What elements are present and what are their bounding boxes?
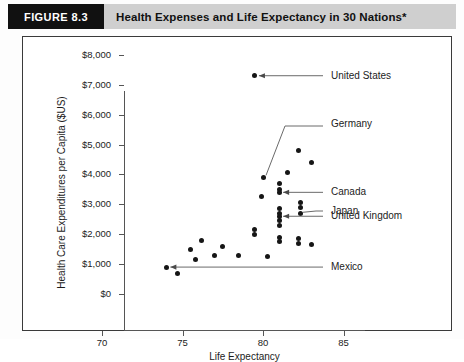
- x-tick-mark: [344, 331, 345, 336]
- data-point: [252, 232, 257, 237]
- y-tick-label: $8,000: [45, 50, 111, 60]
- data-point: [259, 194, 264, 199]
- data-point: [296, 241, 301, 246]
- x-tick-label: 75: [163, 337, 203, 348]
- data-point: [199, 238, 204, 243]
- data-point: [277, 239, 282, 244]
- y-tick-mark: [119, 234, 124, 235]
- data-point: [193, 257, 198, 262]
- y-tick-mark: [119, 55, 124, 56]
- data-point: [188, 247, 193, 252]
- x-tick-label: 85: [324, 337, 364, 348]
- leader-arrowhead: [170, 264, 176, 269]
- x-axis-line: [124, 330, 365, 331]
- y-axis-title: Health Care Expenditures per Capita ($US…: [56, 93, 67, 293]
- y-axis-line: [124, 91, 125, 331]
- data-point: [175, 271, 180, 276]
- data-point: [220, 244, 225, 249]
- y-tick-mark: [119, 115, 124, 116]
- figure-title: Health Expenses and Life Expectancy in 3…: [116, 4, 407, 29]
- figure-number-text: FIGURE 8.3: [24, 11, 88, 23]
- data-point: [164, 265, 169, 270]
- data-point: [296, 148, 301, 153]
- x-tick-label: 80: [243, 337, 283, 348]
- leader-arrowhead: [259, 73, 265, 78]
- y-tick-mark: [119, 174, 124, 175]
- data-point: [285, 170, 290, 175]
- x-tick-mark: [263, 331, 264, 336]
- data-point: [309, 160, 314, 165]
- data-point: [277, 190, 282, 195]
- data-point: [236, 253, 241, 258]
- leader-arrowhead: [283, 214, 289, 219]
- plot-area: $0$1,000$2,000$3,000$4,000$5,000$6,000$7…: [22, 36, 452, 331]
- annotation-label: United States: [331, 70, 391, 81]
- x-axis-title: Life Expectancy: [124, 351, 365, 362]
- y-tick-mark: [119, 204, 124, 205]
- y-tick-mark: [119, 145, 124, 146]
- figure-number-badge: FIGURE 8.3: [8, 4, 104, 29]
- annotation-label: Germany: [331, 118, 372, 129]
- x-tick-mark: [102, 331, 103, 336]
- annotation-label: Mexico: [331, 261, 363, 272]
- leader-line: [266, 126, 323, 175]
- y-tick-mark: [119, 294, 124, 295]
- data-point: [298, 205, 303, 210]
- data-point: [261, 175, 266, 180]
- data-point: [277, 223, 282, 228]
- x-tick-label: 70: [82, 337, 122, 348]
- data-point: [309, 242, 314, 247]
- annotation-label: Canada: [331, 186, 366, 197]
- leader-arrowhead: [283, 190, 289, 195]
- data-point: [265, 254, 270, 259]
- x-tick-mark: [183, 331, 184, 336]
- y-tick-mark: [119, 85, 124, 86]
- data-point: [212, 253, 217, 258]
- data-point: [277, 181, 282, 186]
- y-tick-label: $7,000: [45, 80, 111, 90]
- data-point: [298, 211, 303, 216]
- data-point: [252, 73, 257, 78]
- annotation-label: United Kingdom: [331, 210, 402, 221]
- leader-line: [303, 211, 323, 212]
- y-tick-mark: [119, 264, 124, 265]
